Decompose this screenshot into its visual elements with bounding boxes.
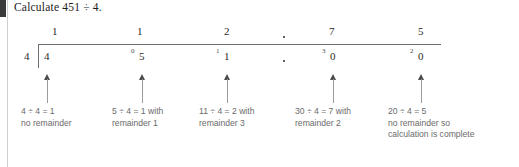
arrow-stem — [227, 79, 228, 103]
step-caption: 11 ÷ 4 = 2 with remainder 3 — [199, 106, 254, 129]
step-caption: 4 ÷ 4 = 1 no remainder — [21, 106, 72, 129]
quotient-digit: 5 — [418, 25, 424, 37]
quotient-digit: 1 — [137, 25, 143, 37]
dividend-digit: 0 — [418, 50, 424, 62]
left-edge-rule — [7, 0, 8, 167]
step-caption: 20 ÷ 4 = 5 no remainder so calculation i… — [388, 106, 474, 141]
corner-marker-icon — [0, 0, 6, 17]
dividend-decimal-point — [283, 60, 285, 62]
division-bracket-overline — [38, 44, 441, 45]
dividend-digit: 1 — [224, 50, 230, 62]
step-caption-line: 4 ÷ 4 = 1 — [21, 106, 72, 118]
step-caption-line: remainder 2 — [295, 118, 351, 130]
quotient-digit: 7 — [329, 25, 335, 37]
dividend-digit: 4 — [44, 50, 50, 62]
step-caption-line: 5 ÷ 4 = 1 with — [112, 106, 163, 118]
page-title: Calculate 451 ÷ 4. — [14, 1, 102, 13]
step-caption-line: calculation is complete — [388, 129, 474, 141]
arrow-stem — [333, 79, 334, 103]
step-caption-line: no remainder — [21, 118, 72, 130]
dividend-digit: 5 — [139, 50, 145, 62]
quotient-digit: 2 — [224, 25, 230, 37]
dividend-digit: 0 — [330, 50, 336, 62]
step-caption-line: 30 ÷ 4 = 7 with — [295, 106, 351, 118]
carry-digit: 1 — [216, 47, 220, 55]
step-caption-line: remainder 1 — [112, 118, 163, 130]
arrow-stem — [421, 79, 422, 103]
carry-digit: 2 — [410, 47, 414, 55]
quotient-digit: 1 — [52, 25, 58, 37]
worked-example-figure: Calculate 451 ÷ 4. 4 1 1 2 7 5 4 0 5 1 1… — [0, 0, 519, 167]
carry-digit: 3 — [322, 47, 326, 55]
step-caption-line: 20 ÷ 4 = 5 — [388, 106, 474, 118]
quotient-decimal-point — [283, 36, 285, 38]
division-bracket-vertical — [38, 44, 39, 68]
divisor-value: 4 — [24, 50, 30, 62]
arrow-stem — [47, 79, 48, 103]
carry-digit: 0 — [131, 47, 135, 55]
step-caption: 5 ÷ 4 = 1 with remainder 1 — [112, 106, 163, 129]
arrow-stem — [142, 79, 143, 103]
step-caption-line: no remainder so — [388, 118, 474, 130]
step-caption: 30 ÷ 4 = 7 with remainder 2 — [295, 106, 351, 129]
step-caption-line: 11 ÷ 4 = 2 with — [199, 106, 254, 118]
step-caption-line: remainder 3 — [199, 118, 254, 130]
